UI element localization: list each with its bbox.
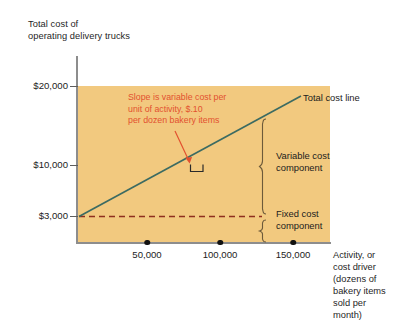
- fixed-cost-brace: [260, 220, 267, 242]
- cost-behavior-chart: Total cost of operating delivery trucks …: [0, 0, 395, 325]
- slope-step-marker: [191, 165, 204, 172]
- fixed-cost-component-label: Fixed cost component: [276, 208, 338, 232]
- variable-cost-component-label: Variable cost component: [276, 150, 338, 174]
- slope-note-arrowhead: [185, 157, 192, 164]
- variable-cost-brace: [260, 119, 267, 214]
- slope-note-arrow: [175, 131, 189, 161]
- total-cost-line-label: Total cost line: [303, 92, 360, 103]
- slope-annotation-text: Slope is variable cost per unit of activ…: [128, 92, 260, 127]
